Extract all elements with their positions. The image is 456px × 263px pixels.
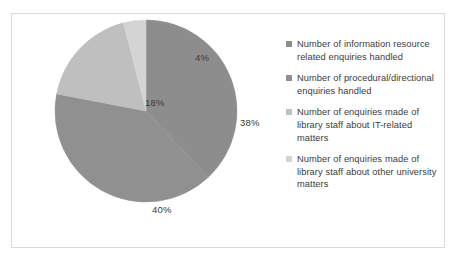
chart-legend: Number of information resource related e… [286,38,444,200]
legend-item-0[interactable]: Number of information resource related e… [286,38,444,63]
legend-item-label-2: Number of enquiries made of library staf… [297,106,444,144]
legend-item-label-1: Number of procedural/directional enquiri… [297,72,444,97]
legend-item-label-3: Number of enquiries made of library staf… [297,153,444,191]
slice-data-label-3: 4% [195,53,209,63]
legend-item-label-0: Number of information resource related e… [297,38,444,63]
legend-swatch-icon-3 [286,156,292,162]
legend-swatch-icon-1 [286,75,292,81]
slice-data-label-0: 38% [240,118,260,128]
pie-chart: 38% 40% 18% 4% [55,20,237,202]
chart-frame: 38% 40% 18% 4% Number of information res… [11,13,445,248]
slice-data-label-2: 18% [145,98,165,108]
pie-svg [55,20,237,202]
legend-item-3[interactable]: Number of enquiries made of library staf… [286,153,444,191]
legend-item-1[interactable]: Number of procedural/directional enquiri… [286,72,444,97]
slice-data-label-1: 40% [152,205,172,215]
legend-swatch-icon-2 [286,109,292,115]
pie-chart-plot-area: 38% 40% 18% 4% [12,14,276,247]
legend-swatch-icon-0 [286,41,292,47]
pie-slice-group [55,20,237,202]
legend-item-2[interactable]: Number of enquiries made of library staf… [286,106,444,144]
